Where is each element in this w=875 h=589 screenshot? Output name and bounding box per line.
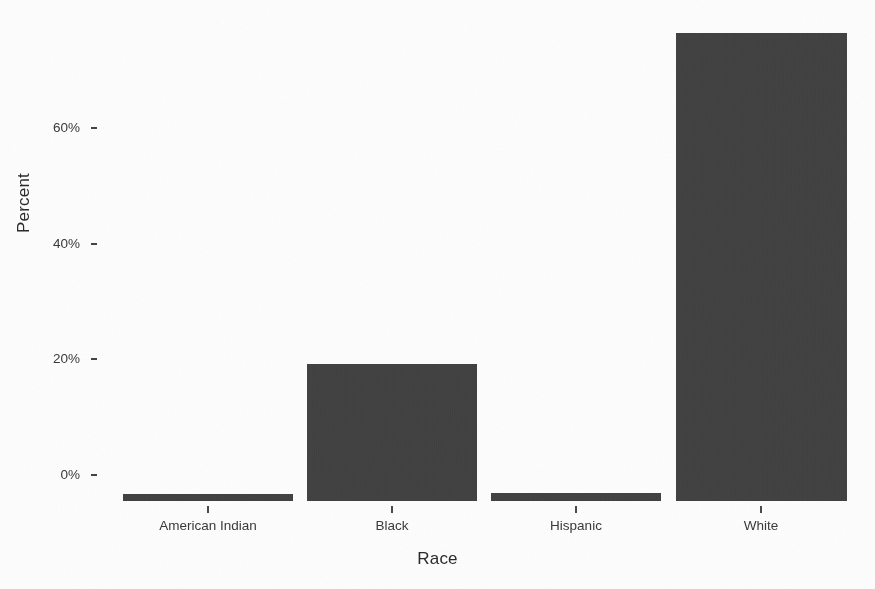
x-tick-label-american-indian: American Indian [127,518,289,533]
bar-chart: Percent 60% 40% 20% 0% American Indian B… [0,0,875,589]
x-axis-title-text: Race [417,549,458,568]
x-tick-mark-american-indian [207,506,209,513]
x-tick-mark-white [760,506,762,513]
x-tick-label-black: Black [311,518,473,533]
y-tick-mark-40 [91,243,97,245]
y-tick-mark-20 [91,358,97,360]
y-tick-label-60: 60% [18,120,80,135]
y-tick-label-0: 0% [18,467,80,482]
bar-white [676,33,847,501]
y-axis-title: Percent [14,153,34,233]
bar-black [307,364,477,501]
y-tick-label-40: 40% [18,236,80,251]
cut-off-text-artifact [0,0,875,7]
x-tick-mark-hispanic [575,506,577,513]
y-tick-mark-0 [91,474,97,476]
y-axis-title-text: Percent [14,173,34,233]
x-tick-label-hispanic: Hispanic [495,518,657,533]
y-tick-label-20: 20% [18,351,80,366]
bar-hispanic [491,493,661,501]
bar-american-indian [123,494,293,501]
x-tick-label-white: White [680,518,842,533]
y-tick-mark-60 [91,127,97,129]
x-tick-mark-black [391,506,393,513]
x-axis-title: Race [0,549,875,569]
